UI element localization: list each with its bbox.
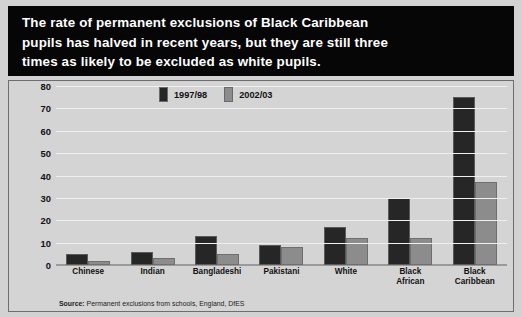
- bar: [195, 236, 217, 265]
- x-axis-tick-label: Indian: [120, 267, 184, 293]
- bar: [153, 258, 175, 265]
- y-axis-tick-label: 60: [41, 125, 51, 136]
- bar: [281, 247, 303, 265]
- gridline: [56, 108, 507, 109]
- y-axis-tick-label: 0: [46, 260, 51, 271]
- x-axis-tick-label: BlackCaribbean: [443, 267, 507, 293]
- chart-panel: Pupils permanently excluded by ethnic gr…: [8, 80, 514, 312]
- x-axis-tick-label: Chinese: [56, 267, 120, 293]
- gridline: [56, 265, 507, 266]
- y-axis-tick-label: 20: [41, 215, 51, 226]
- y-axis-tick-label: 30: [41, 192, 51, 203]
- source-prefix: Source:: [59, 300, 85, 307]
- legend-swatch: [224, 87, 233, 102]
- plot-area: 80706050403020100: [56, 86, 507, 265]
- page-title-line-3: times as likely to be excluded as white …: [22, 52, 500, 72]
- bar: [217, 254, 239, 265]
- source-text: Permanent exclusions from schools, Engla…: [85, 300, 245, 307]
- bar: [453, 97, 475, 265]
- page-title-line-2: pupils has halved in recent years, but t…: [22, 33, 500, 53]
- gridline: [56, 176, 507, 177]
- x-axis-tick-label: BlackAfrican: [378, 267, 442, 293]
- source-note: Source: Permanent exclusions from school…: [59, 300, 244, 307]
- x-axis-tick-label: Pakistani: [249, 267, 313, 293]
- gridline: [56, 243, 507, 244]
- bar: [66, 254, 88, 265]
- y-axis-tick-label: 40: [41, 170, 51, 181]
- bar: [131, 252, 153, 265]
- x-axis-tick-label: Bangladeshi: [185, 267, 249, 293]
- bar: [259, 245, 281, 265]
- x-axis-tick-label: White: [314, 267, 378, 293]
- chart-title-banner: The rate of permanent exclusions of Blac…: [8, 6, 514, 76]
- legend-swatch: [159, 87, 168, 102]
- page-title-line-1: The rate of permanent exclusions of Blac…: [22, 13, 500, 33]
- gridline: [56, 131, 507, 132]
- bar: [324, 227, 346, 265]
- y-axis-tick-label: 50: [41, 148, 51, 159]
- bar: [388, 198, 410, 265]
- y-axis-tick-label: 10: [41, 237, 51, 248]
- y-axis-tick-label: 80: [41, 81, 51, 92]
- legend-label: 2002/03: [239, 90, 272, 100]
- y-axis-tick-label: 70: [41, 103, 51, 114]
- gridline: [56, 198, 507, 199]
- gridline: [56, 86, 507, 87]
- gridline: [56, 153, 507, 154]
- legend-label: 1997/98: [174, 90, 207, 100]
- chart-legend: 1997/982002/03: [159, 87, 272, 102]
- legend-item: 2002/03: [224, 87, 272, 102]
- legend-item: 1997/98: [159, 87, 207, 102]
- chart-figure: The rate of permanent exclusions of Blac…: [0, 0, 522, 317]
- bar: [475, 182, 497, 265]
- x-axis-category-labels: ChineseIndianBangladeshiPakistaniWhiteBl…: [56, 267, 507, 293]
- gridline: [56, 220, 507, 221]
